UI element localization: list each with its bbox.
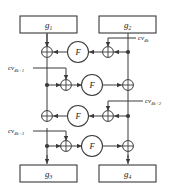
wire-cv4k1-feed xyxy=(33,68,66,80)
xor-gate-3a xyxy=(42,111,53,122)
xor-gate-4b xyxy=(123,141,134,152)
xor-gate-3b xyxy=(103,111,114,122)
wire-cv4k2-feed xyxy=(108,101,143,111)
wire-cv4k-feed xyxy=(108,38,136,47)
wire-cv4k3-feed xyxy=(33,131,66,141)
xor-gates xyxy=(42,47,134,152)
f-label-4: F xyxy=(88,141,95,151)
constant-label-cv-4k-3: cv4k+3 xyxy=(8,127,25,136)
xor-gate-2a xyxy=(61,80,72,91)
constant-label-cv-4k: cv4k xyxy=(138,34,150,43)
junction-dots xyxy=(45,50,130,148)
figure-canvas: g1 g2 g3 g4 F F F F cv4k cv4k+1 cv4k+2 c… xyxy=(0,0,171,193)
xor-gate-1a xyxy=(42,47,53,58)
feistel-diagram: g1 g2 g3 g4 F F F F cv4k cv4k+1 cv4k+2 c… xyxy=(0,0,171,193)
constant-label-cv-4k-1: cv4k+1 xyxy=(8,64,24,73)
f-label-1: F xyxy=(74,47,81,57)
junction-dot-r1 xyxy=(126,50,130,54)
junction-dot-r2 xyxy=(45,83,49,87)
f-label-2: F xyxy=(88,80,95,90)
xor-gate-1b xyxy=(103,47,114,58)
junction-dot-r3 xyxy=(126,114,130,118)
constant-label-cv-4k-2: cv4k+2 xyxy=(145,97,162,106)
xor-gate-2b xyxy=(123,80,134,91)
xor-gate-4a xyxy=(61,141,72,152)
junction-dot-r4 xyxy=(45,144,49,148)
f-label-3: F xyxy=(74,111,81,121)
f-circles xyxy=(68,42,103,157)
